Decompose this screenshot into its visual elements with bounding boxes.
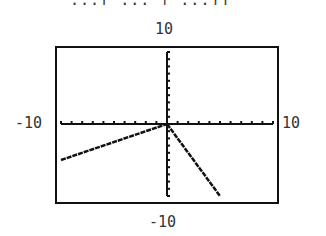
x-min-label: -10 (15, 114, 42, 132)
plot-series (61, 124, 220, 196)
y-max-label: 10 (155, 20, 173, 38)
y-min-label: -10 (149, 213, 176, 231)
plot-line (167, 124, 220, 196)
plot-line (61, 124, 167, 160)
x-max-label: 10 (282, 114, 300, 132)
